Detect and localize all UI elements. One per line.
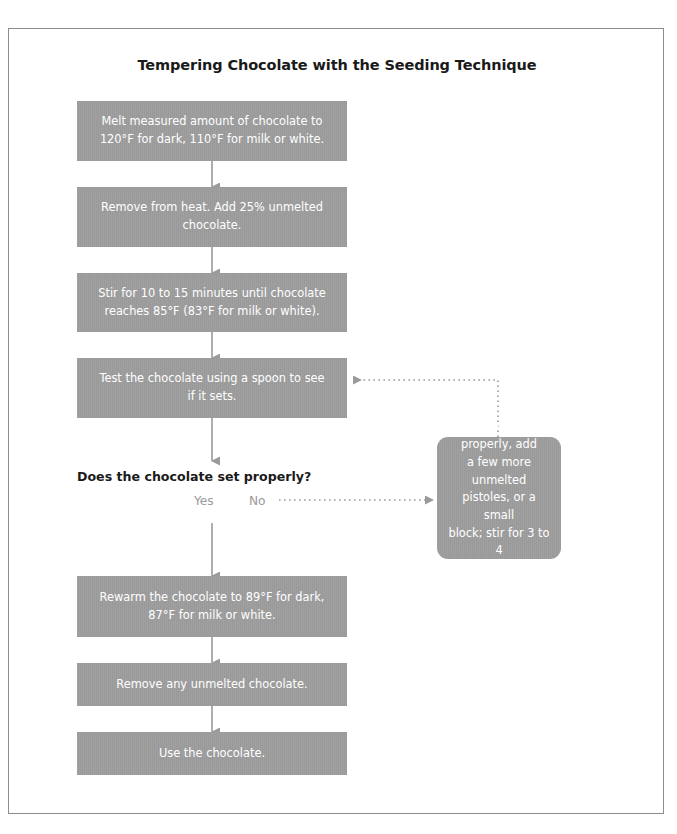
page-frame: Tempering Chocolate with the Seeding Tec…	[8, 28, 664, 814]
branch-label-no: No	[249, 494, 266, 508]
page-title: Tempering Chocolate with the Seeding Tec…	[9, 57, 665, 73]
flow-box-melt[interactable]: Melt measured amount of chocolate to 120…	[77, 101, 347, 161]
flow-box-fix[interactable]: If not set properly, add a few more unme…	[437, 437, 561, 559]
decision-question: Does the chocolate set properly?	[77, 469, 311, 484]
flow-box-remove-heat[interactable]: Remove from heat. Add 25% unmelted choco…	[77, 187, 347, 247]
flow-box-stir[interactable]: Stir for 10 to 15 minutes until chocolat…	[77, 273, 347, 332]
branch-label-yes: Yes	[194, 494, 214, 508]
flow-box-use[interactable]: Use the chocolate.	[77, 732, 347, 775]
flow-box-rewarm[interactable]: Rewarm the chocolate to 89°F for dark, 8…	[77, 576, 347, 637]
flow-box-remove-unmelted[interactable]: Remove any unmelted chocolate.	[77, 663, 347, 706]
flow-box-test[interactable]: Test the chocolate using a spoon to see …	[77, 358, 347, 418]
flowchart-canvas: Tempering Chocolate with the Seeding Tec…	[9, 29, 665, 815]
